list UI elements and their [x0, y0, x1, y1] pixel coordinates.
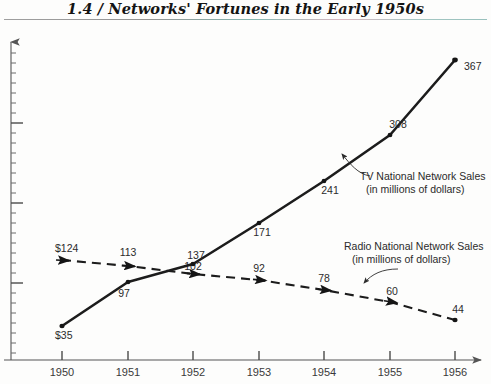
tv-point-label: 97: [118, 287, 130, 299]
line-chart-svg: 1950 1951 1952 1953 1954 1955 1956: [0, 24, 491, 384]
tv-point-label: 171: [253, 226, 271, 238]
tv-annotation: TV National Network Sales (in millions o…: [342, 154, 485, 195]
x-tick-label: 1955: [378, 366, 402, 378]
radio-annotation-line1: Radio National Network Sales: [344, 240, 483, 252]
radio-point-label: 78: [318, 272, 330, 284]
figure-header: 1.4 / Networks' Fortunes in the Early 19…: [0, 0, 491, 24]
tv-point-label: 308: [389, 118, 407, 130]
radio-point-label: $124: [55, 242, 79, 254]
tv-point-label: 137: [187, 249, 205, 261]
x-tick-label: 1954: [312, 366, 336, 378]
radio-annotation: Radio National Network Sales (in million…: [344, 240, 483, 283]
tv-point-label: 367: [464, 60, 482, 72]
tv-annotation-line1: TV National Network Sales: [360, 170, 485, 182]
x-tick-label: 1953: [247, 366, 271, 378]
x-axis-ticks: [62, 351, 455, 360]
tv-point-label: 241: [321, 184, 339, 196]
tv-annotation-line2: (in millions of dollars): [366, 183, 465, 195]
y-axis-ticks: [11, 53, 23, 353]
x-axis-tick-labels: 1950 1951 1952 1953 1954 1955 1956: [50, 366, 467, 378]
x-tick-label: 1951: [116, 366, 140, 378]
y-axis: [11, 42, 23, 360]
x-tick-label: 1952: [181, 366, 205, 378]
figure-page: 1.4 / Networks' Fortunes in the Early 19…: [0, 0, 491, 384]
x-tick-label: 1956: [443, 366, 467, 378]
chart-plot-area: 1950 1951 1952 1953 1954 1955 1956: [0, 24, 491, 384]
x-tick-label: 1950: [50, 366, 74, 378]
radio-annotation-line2: (in millions of dollars): [352, 253, 451, 265]
title-divider: [4, 19, 487, 20]
page-title: 1.4 / Networks' Fortunes in the Early 19…: [0, 0, 491, 17]
tv-point-label: $35: [55, 329, 73, 341]
x-axis: 1950 1951 1952 1953 1954 1955 1956: [4, 351, 481, 378]
radio-point-label: 113: [120, 246, 137, 258]
series-tv: $35 97 137 171 241 308 367: [55, 58, 482, 341]
radio-point-label: 92: [253, 262, 265, 274]
radio-point-label: 44: [452, 303, 464, 315]
radio-point-label: 60: [386, 285, 398, 297]
